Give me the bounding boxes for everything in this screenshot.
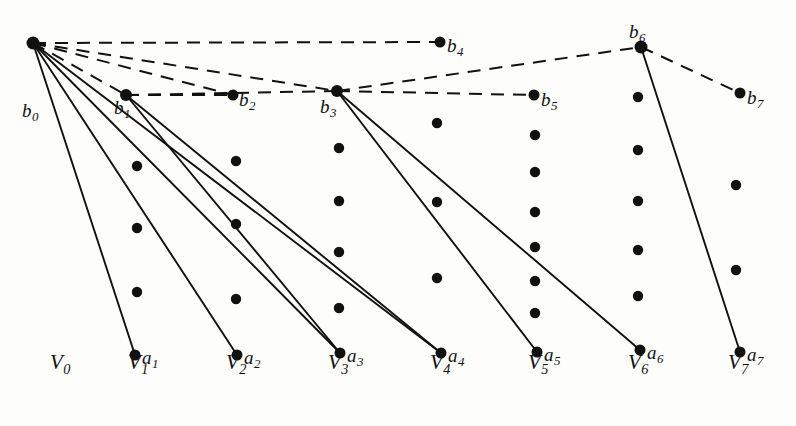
label-column-V0-base: V <box>50 350 63 374</box>
label-column-V3-base: V <box>328 350 341 374</box>
label-column-V4: V4 <box>430 352 450 376</box>
label-b0-subscript: 0 <box>32 109 39 124</box>
node-dot-b0 <box>27 37 40 50</box>
interior-node-dot-V1-1 <box>132 223 142 233</box>
label-b2-base: b <box>239 89 249 110</box>
label-a2-subscript: 2 <box>254 356 261 371</box>
interior-node-dot-V3-9 <box>334 303 344 313</box>
interior-node-dot-V3-8 <box>334 247 344 257</box>
label-column-V5-subscript: 5 <box>541 361 549 377</box>
dashed-edge-b0-b4 <box>33 42 440 43</box>
interior-node-dot-V2-3 <box>231 156 241 166</box>
label-b7: b7 <box>747 88 763 111</box>
dashed-edge-b0-b3 <box>33 43 337 91</box>
label-b6: b6 <box>629 22 645 45</box>
label-column-V7-base: V <box>728 350 741 374</box>
label-b3: b3 <box>320 97 336 120</box>
interior-node-dot-V4-12 <box>432 273 442 283</box>
label-column-V2-base: V <box>226 350 239 374</box>
label-b7-base: b <box>747 87 757 108</box>
interior-node-dot-V2-4 <box>231 219 241 229</box>
label-a5-subscript: 5 <box>554 353 561 368</box>
label-column-V1-subscript: 1 <box>141 361 149 377</box>
solid-edge-b3-a6 <box>337 91 640 350</box>
interior-node-dot-V7-25 <box>731 265 741 275</box>
label-b5-base: b <box>541 89 551 110</box>
label-b3-subscript: 3 <box>330 105 337 120</box>
label-b2: b2 <box>239 90 255 113</box>
solid-edge-b0-a3 <box>33 43 340 353</box>
interior-node-dot-V1-2 <box>132 287 142 297</box>
label-b6-subscript: 6 <box>639 30 646 45</box>
node-dot-b7 <box>735 88 746 99</box>
solid-edge-b0-a1 <box>33 43 135 355</box>
label-a3-subscript: 3 <box>357 354 364 369</box>
interior-node-dot-V4-10 <box>432 118 442 128</box>
label-a6-subscript: 6 <box>657 351 664 366</box>
label-column-V6: V6 <box>628 352 648 376</box>
dashed-edge-group <box>33 42 740 95</box>
dashed-edge-b3-b5 <box>337 91 534 95</box>
label-column-V0-subscript: 0 <box>63 361 71 377</box>
interior-node-dot-V2-5 <box>231 294 241 304</box>
interior-node-dot-V5-16 <box>530 242 540 252</box>
label-b4-subscript: 4 <box>457 44 464 59</box>
node-dot-b2 <box>228 90 239 101</box>
interior-node-dot-V6-20 <box>633 145 643 155</box>
interior-node-dot-V7-24 <box>731 180 741 190</box>
interior-node-dot-V5-18 <box>530 308 540 318</box>
interior-node-dot-V6-23 <box>633 291 643 301</box>
interior-node-dot-V6-22 <box>633 245 643 255</box>
label-column-V0: V0 <box>50 352 70 376</box>
label-a6: a6 <box>647 343 663 366</box>
node-dot-b5 <box>529 90 540 101</box>
interior-node-dot-V3-6 <box>334 143 344 153</box>
interior-node-dot-V6-19 <box>633 92 643 102</box>
label-b5-subscript: 5 <box>551 98 558 113</box>
node-dot-b4 <box>435 37 446 48</box>
label-column-V4-base: V <box>430 350 443 374</box>
interior-node-dot-V5-17 <box>530 276 540 286</box>
interior-node-dot-V5-14 <box>530 167 540 177</box>
label-column-V2-subscript: 2 <box>239 361 247 377</box>
label-a7: a7 <box>747 345 763 368</box>
label-column-V7-subscript: 7 <box>741 361 749 377</box>
label-b1: b1 <box>114 98 130 121</box>
label-column-V6-base: V <box>628 350 641 374</box>
interior-node-dot-V3-7 <box>334 196 344 206</box>
label-a4-subscript: 4 <box>458 354 465 369</box>
label-b0: b0 <box>22 101 38 124</box>
graph-figure: b0b1b2b3b4b5b6b7a1a2a3a4a5a6a7V0V1V2V3V4… <box>0 0 796 426</box>
label-column-V6-subscript: 6 <box>641 361 649 377</box>
label-a7-subscript: 7 <box>757 353 764 368</box>
label-column-V3: V3 <box>328 352 348 376</box>
label-column-V5: V5 <box>528 352 548 376</box>
solid-edge-b0-a2 <box>33 43 237 355</box>
label-column-V4-subscript: 4 <box>443 361 451 377</box>
interior-node-dot-V4-11 <box>432 197 442 207</box>
solid-edge-b3-a5 <box>337 91 537 352</box>
label-b4-base: b <box>447 35 457 56</box>
solid-edge-b0-a4 <box>33 43 441 353</box>
label-b1-subscript: 1 <box>124 106 131 121</box>
dashed-edge-b3-b6 <box>337 47 641 91</box>
label-b3-base: b <box>320 96 330 117</box>
interior-node-dot-V5-15 <box>530 207 540 217</box>
label-column-V7: V7 <box>728 352 748 376</box>
label-a1-subscript: 1 <box>152 356 159 371</box>
label-b6-base: b <box>629 21 639 42</box>
solid-edge-b1-a4 <box>126 95 441 353</box>
label-b7-subscript: 7 <box>757 96 764 111</box>
label-b5: b5 <box>541 90 557 113</box>
label-b1-base: b <box>114 97 124 118</box>
label-column-V1: V1 <box>128 352 148 376</box>
node-dot-b3 <box>331 85 343 97</box>
label-column-V2: V2 <box>226 352 246 376</box>
label-b0-base: b <box>22 100 32 121</box>
graph-canvas <box>0 0 796 426</box>
label-column-V3-subscript: 3 <box>341 361 349 377</box>
label-column-V1-base: V <box>128 350 141 374</box>
interior-node-dot-V6-21 <box>633 196 643 206</box>
interior-node-dot-V5-13 <box>530 130 540 140</box>
interior-node-dot-V1-0 <box>132 161 142 171</box>
